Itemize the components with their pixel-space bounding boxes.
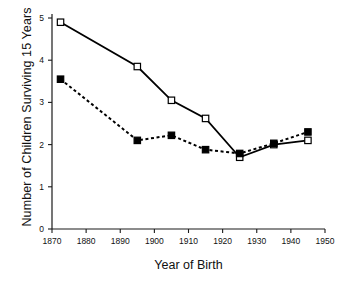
x-tick-label: 1880 — [77, 236, 96, 246]
data-point-marker — [202, 146, 208, 152]
x-tick-label: 1930 — [247, 236, 266, 246]
y-tick-label: 3 — [28, 97, 44, 107]
chart-figure: Number of Children Surviving 15 Years Ye… — [0, 0, 350, 283]
data-point-marker — [57, 19, 63, 25]
data-point-marker — [168, 132, 174, 138]
y-tick-label: 1 — [28, 182, 44, 192]
x-tick-label: 1900 — [145, 236, 164, 246]
x-tick-label: 1890 — [111, 236, 130, 246]
series-line-0 — [61, 22, 308, 157]
data-point-marker — [271, 140, 277, 146]
x-tick-label: 1950 — [316, 236, 335, 246]
data-point-marker — [57, 76, 63, 82]
y-tick-label: 4 — [28, 55, 44, 65]
x-tick-label: 1910 — [179, 236, 198, 246]
y-tick-label: 0 — [28, 224, 44, 234]
x-tick-label: 1920 — [213, 236, 232, 246]
y-tick-label: 5 — [28, 13, 44, 23]
x-tick-label: 1940 — [281, 236, 300, 246]
data-point-marker — [305, 137, 311, 143]
y-tick-label: 2 — [28, 140, 44, 150]
data-point-marker — [134, 137, 140, 143]
data-point-marker — [305, 129, 311, 135]
data-point-marker — [168, 97, 174, 103]
data-point-marker — [236, 150, 242, 156]
data-point-marker — [202, 115, 208, 121]
x-tick-label: 1870 — [43, 236, 62, 246]
data-point-marker — [134, 63, 140, 69]
